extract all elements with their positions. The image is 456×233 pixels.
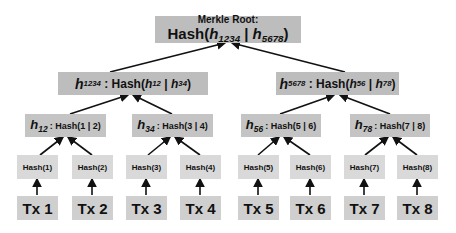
leaf-hash-8: Hash(8) [397,155,438,179]
leaf-hash-1: Hash(1) [17,155,58,179]
merkle-root-node: Merkle Root: Hash(h1234 | h5678) [155,16,301,43]
transaction-4: Tx 4 [180,196,221,220]
node-h1234: h1234 : Hash(h12 | h34) [58,72,208,95]
transaction-5: Tx 5 [238,196,279,220]
leaf-hash-2: Hash(2) [72,155,113,179]
leaf-hash-5: Hash(5) [238,155,279,179]
transaction-3: Tx 3 [126,196,167,220]
node-h12: h12: Hash(1 | 2) [25,114,106,137]
node-h34: h34: Hash(3 | 4) [132,114,213,137]
transaction-8: Tx 8 [397,196,438,220]
transaction-2: Tx 2 [72,196,113,220]
transaction-7: Tx 7 [344,196,385,220]
merkle-root-label: Merkle Root: [198,15,259,25]
leaf-hash-4: Hash(4) [180,155,221,179]
merkle-root-formula: Hash(h1234 | h5678) [168,26,289,44]
leaf-hash-6: Hash(6) [290,155,331,179]
transaction-1: Tx 1 [17,196,58,220]
leaf-hash-3: Hash(3) [126,155,167,179]
leaf-hash-7: Hash(7) [344,155,385,179]
node-h56: h56: Hash(5 | 6) [241,114,321,137]
transaction-6: Tx 6 [290,196,331,220]
node-h78: h78: Hash(7 | 8) [350,114,430,137]
node-h5678: h5678 : Hash(h56 | h78) [276,72,399,95]
